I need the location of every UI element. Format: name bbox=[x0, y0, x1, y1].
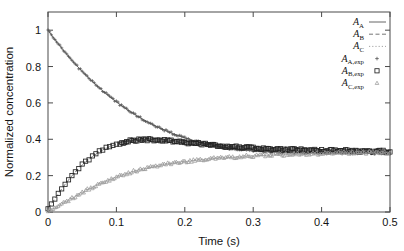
plot-canvas: 00.10.20.30.40.500.20.40.60.81 AAABACAA,… bbox=[0, 0, 404, 251]
y-tick-label: 1 bbox=[35, 24, 41, 36]
marker-plus bbox=[79, 67, 82, 70]
legend-label-A_A,exp: AA,exp bbox=[340, 53, 364, 66]
legend-label-A_A: AA bbox=[352, 16, 364, 29]
marker-triangle bbox=[375, 81, 379, 84]
legend-subscript: B bbox=[359, 34, 364, 41]
y-tick-label: 0.6 bbox=[26, 97, 41, 109]
legend-label-A_B,exp: AB,exp bbox=[341, 65, 365, 78]
axes-layer: 00.10.20.30.40.500.20.40.60.81 bbox=[26, 12, 398, 228]
legend-item-A_C,exp[interactable]: AC,exp bbox=[341, 77, 379, 90]
legend-item-A_A[interactable]: AA bbox=[352, 16, 386, 29]
legend-item-A_C[interactable]: AC bbox=[352, 40, 386, 53]
y-axis-title: Normalized concentration bbox=[3, 47, 15, 177]
marker-plus bbox=[105, 91, 108, 94]
y-tick-label: 0.2 bbox=[26, 170, 41, 182]
legend-subscript: A bbox=[359, 22, 364, 29]
y-tick-label: 0 bbox=[35, 206, 41, 218]
legend-item-A_A,exp[interactable]: AA,exp bbox=[340, 53, 378, 66]
legend-label-A_C,exp: AC,exp bbox=[341, 77, 365, 90]
legend-item-A_B[interactable]: AB bbox=[352, 28, 386, 41]
marker-plus bbox=[118, 104, 121, 107]
marker-triangle bbox=[84, 188, 87, 191]
legend-item-A_B,exp[interactable]: AB,exp bbox=[341, 65, 379, 78]
chart-figure: 00.10.20.30.40.500.20.40.60.81 AAABACAA,… bbox=[0, 0, 404, 251]
marker-plus bbox=[125, 107, 128, 110]
experimental-markers-layer bbox=[46, 28, 392, 212]
legend-subscript: A,exp bbox=[348, 58, 365, 65]
y-tick-label: 0.4 bbox=[26, 133, 41, 145]
marker-square bbox=[375, 69, 379, 73]
marker-plus bbox=[100, 87, 103, 90]
legend-subscript: B,exp bbox=[348, 70, 365, 77]
exp-series-A_C,exp bbox=[46, 149, 391, 213]
x-tick-label: 0.4 bbox=[314, 216, 329, 228]
legend-label-A_B: AB bbox=[352, 28, 364, 41]
legend-label-A_C: AC bbox=[352, 40, 364, 53]
x-tick-label: 0.1 bbox=[109, 216, 124, 228]
y-tick-label: 0.8 bbox=[26, 61, 41, 73]
x-tick-label: 0.5 bbox=[382, 216, 397, 228]
x-tick-label: 0.3 bbox=[246, 216, 261, 228]
legend-subscript: C,exp bbox=[348, 83, 365, 90]
chart-legend: AAABACAA,expAB,expAC,exp bbox=[340, 16, 386, 90]
legend-subscript: C bbox=[359, 46, 364, 53]
marker-plus bbox=[91, 79, 94, 82]
exp-series-A_A,exp bbox=[46, 28, 391, 155]
x-tick-label: 0 bbox=[45, 216, 51, 228]
x-axis-title: Time (s) bbox=[198, 235, 240, 247]
series-line-A_A bbox=[48, 30, 390, 153]
exp-series-A_B,exp bbox=[46, 137, 392, 211]
marker-plus bbox=[375, 57, 379, 61]
x-tick-label: 0.2 bbox=[177, 216, 192, 228]
